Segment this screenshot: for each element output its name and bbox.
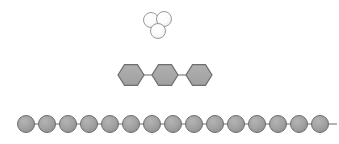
sphere-node bbox=[228, 116, 245, 133]
sphere-node bbox=[39, 116, 56, 133]
sphere-node bbox=[18, 116, 35, 133]
polymer-node-group bbox=[18, 116, 329, 133]
hexagon-node-group bbox=[118, 65, 212, 86]
sphere-node bbox=[270, 116, 287, 133]
sphere-node bbox=[81, 116, 98, 133]
sphere-node bbox=[312, 116, 329, 133]
sphere-node bbox=[60, 116, 77, 133]
sphere-node bbox=[144, 116, 161, 133]
molecular-diagram-canvas bbox=[0, 0, 339, 144]
sphere-node bbox=[207, 116, 224, 133]
sphere-node bbox=[165, 116, 182, 133]
sphere-node bbox=[291, 116, 308, 133]
hexagon-trimer-chain bbox=[118, 65, 212, 86]
sphere-node bbox=[151, 24, 166, 39]
hexagon-ring-node bbox=[186, 65, 212, 86]
sphere-node bbox=[186, 116, 203, 133]
figure-root: Molecular structure schematics bbox=[0, 0, 339, 144]
sphere-node bbox=[102, 116, 119, 133]
hexagon-ring-node bbox=[118, 65, 144, 86]
sphere-node bbox=[123, 116, 140, 133]
hexagon-ring-node bbox=[152, 65, 178, 86]
sphere-node bbox=[249, 116, 266, 133]
